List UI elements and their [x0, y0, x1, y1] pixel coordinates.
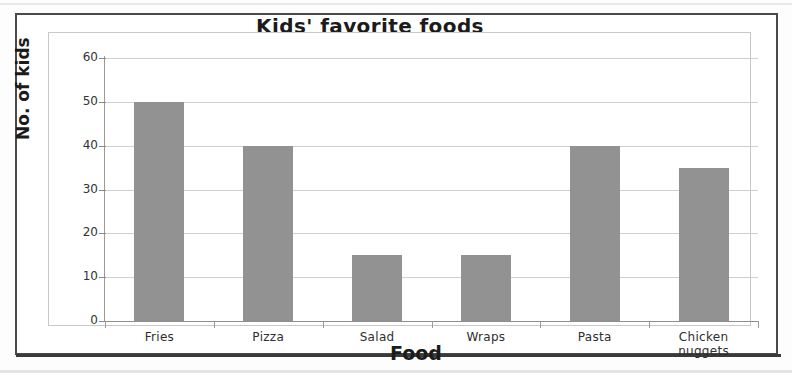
bar-fries[interactable]	[134, 102, 184, 321]
y-axis-tick-label-slot: 20	[58, 233, 98, 234]
x-axis-separator	[758, 321, 759, 328]
x-axis-separator	[323, 321, 324, 328]
bar-wraps[interactable]	[461, 255, 511, 321]
bar-pasta[interactable]	[570, 146, 620, 321]
paper-edge-bottom	[0, 370, 792, 373]
y-axis-tick-label: 40	[64, 138, 98, 152]
x-axis-separator	[432, 321, 433, 328]
y-axis-tick-label: 60	[64, 50, 98, 64]
y-axis-title: No. of kids	[13, 37, 33, 140]
x-axis-separator	[649, 321, 650, 328]
y-axis-tick-label-slot: 60	[58, 58, 98, 59]
bar-chicken-nuggets[interactable]	[679, 168, 729, 321]
y-axis-tick-label-slot: 30	[58, 190, 98, 191]
x-axis-separator	[540, 321, 541, 328]
y-axis-tick-label: 30	[64, 182, 98, 196]
y-axis-tick-label: 20	[64, 225, 98, 239]
y-axis-tick-label-slot: 10	[58, 277, 98, 278]
x-axis-separator	[105, 321, 106, 328]
y-axis-tick-label-slot: 40	[58, 146, 98, 147]
y-axis-tick-label-slot: 0	[58, 321, 98, 322]
bar-pizza[interactable]	[243, 146, 293, 321]
plot-area	[105, 58, 758, 321]
paper-edge-top	[0, 3, 792, 5]
y-axis-tick-label: 0	[64, 313, 98, 327]
y-axis-tick-label: 10	[64, 269, 98, 283]
y-axis-tick-label: 50	[64, 94, 98, 108]
x-axis-separator	[214, 321, 215, 328]
bar-salad[interactable]	[352, 255, 402, 321]
y-axis-tick-label-slot: 50	[58, 102, 98, 103]
x-axis-title: Food	[0, 342, 792, 364]
chart-screenshot: Kids' favorite foods 0102030405060 Fries…	[0, 0, 792, 375]
